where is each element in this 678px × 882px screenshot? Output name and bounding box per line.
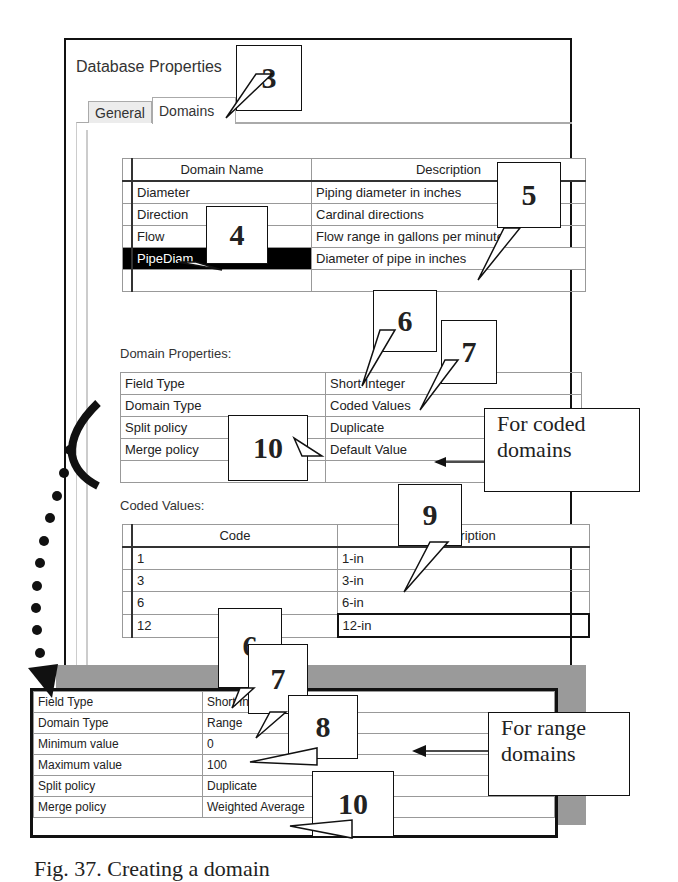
table-row[interactable]: 1 1-in [123,547,590,570]
domain-description-cell[interactable]: Flow range in gallons per minute [312,226,586,248]
row-selector[interactable] [123,248,133,270]
row-selector[interactable] [123,270,133,292]
table-row-selected[interactable]: PipeDiam Diameter of pipe in inches [123,248,586,270]
row-selector-header [123,525,133,548]
tab-general[interactable]: General [88,101,152,123]
code-description-cell-editing[interactable]: 12-in [338,614,590,637]
table-row[interactable]: 3 3-in [123,570,590,592]
coded-values-table: Code Description 1 1-in 3 3-in 6 6-in 12… [122,524,590,638]
domain-name-cell[interactable] [132,270,312,292]
code-description-cell[interactable]: 3-in [338,570,590,592]
domain-description-cell[interactable]: Diameter of pipe in inches [312,248,586,270]
domain-properties-label: Domain Properties: [120,346,231,361]
tab-strip-divider [236,123,572,124]
property-name: Split policy [34,776,203,797]
property-name: Field Type [121,373,326,395]
callout-10: 10 [228,415,308,481]
table-row[interactable]: 6 6-in [123,592,590,615]
property-name: Minimum value [34,734,203,755]
callout-3: 3 [236,45,302,111]
row-selector[interactable] [123,181,133,204]
table-row-new[interactable] [123,270,586,292]
dialog-title: Database Properties [76,58,222,76]
callout-7: 7 [441,320,497,384]
note-coded-domains: For coded domains [484,408,640,492]
note-range-domains: For range domains [488,712,630,796]
table-header: Code Description [123,525,590,548]
row-selector[interactable] [123,547,133,570]
column-header-code[interactable]: Code [132,525,338,548]
property-name: Maximum value [34,755,203,776]
callout-8: 8 [288,695,358,759]
row-selector[interactable] [123,570,133,592]
row-selector[interactable] [123,226,133,248]
callout-9: 9 [398,484,462,546]
tab-domains[interactable]: Domains [152,97,236,124]
code-description-cell[interactable]: 1-in [338,547,590,570]
property-row[interactable]: Merge policy Weighted Average [34,797,555,818]
domain-description-cell[interactable] [312,270,586,292]
callout-10-range: 10 [312,771,394,837]
callout-6: 6 [373,290,437,352]
coded-values-label: Coded Values: [120,498,204,513]
code-cell[interactable]: 3 [132,570,338,592]
domain-name-cell[interactable]: Diameter [132,181,312,204]
row-selector[interactable] [123,614,133,637]
table-row[interactable]: Flow Flow range in gallons per minute [123,226,586,248]
code-cell[interactable]: 1 [132,547,338,570]
row-selector[interactable] [123,204,133,226]
table-row[interactable]: 12 12-in [123,614,590,637]
property-row[interactable]: Split policy Duplicate [34,776,555,797]
column-header-domain-name[interactable]: Domain Name [132,159,312,182]
column-header-description[interactable]: Description [338,525,590,548]
row-selector[interactable] [123,592,133,615]
property-name: Field Type [34,692,203,713]
callout-5: 5 [497,162,561,228]
callout-4: 4 [206,206,268,264]
property-name: Domain Type [34,713,203,734]
property-name: Merge policy [34,797,203,818]
figure-caption: Fig. 37. Creating a domain [34,856,270,882]
property-name: Domain Type [121,395,326,417]
property-row[interactable]: Field Type Short Integer [121,373,582,395]
code-description-cell[interactable]: 6-in [338,592,590,615]
row-selector-header [123,159,133,182]
